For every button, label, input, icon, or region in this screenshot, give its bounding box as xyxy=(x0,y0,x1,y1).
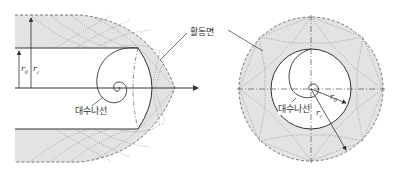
left-figure xyxy=(15,15,198,162)
label-spiral-left: 대수나선 xyxy=(75,104,107,117)
label-rc-right: rc xyxy=(316,108,323,119)
right-figure xyxy=(228,15,385,163)
label-r0-left: r0 xyxy=(21,64,28,75)
label-rc-left: rc xyxy=(33,64,40,75)
label-r0-right: r0 xyxy=(330,92,337,103)
label-spiral-right: 대수나선 xyxy=(278,102,310,115)
label-active-surface: 활동면 xyxy=(190,25,214,38)
